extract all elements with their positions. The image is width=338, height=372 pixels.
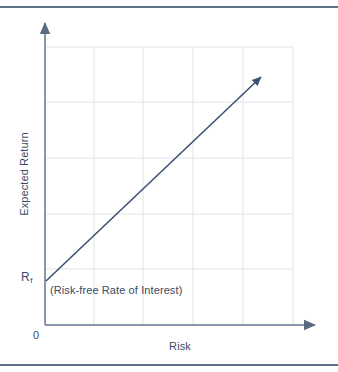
capital-market-line (46, 77, 261, 281)
chart-plot-area (0, 0, 338, 372)
x-axis-label: Risk (140, 340, 220, 352)
y-axis-label: Expected Return (18, 114, 30, 234)
risk-free-rate-symbol: R (21, 270, 30, 284)
origin-tick-label: 0 (33, 329, 39, 341)
risk-free-rate-note: (Risk-free Rate of Interest) (50, 284, 182, 296)
risk-free-rate-label: Rf (21, 270, 32, 284)
figure-container: Expected Return Risk 0 Rf (Risk-free Rat… (0, 0, 338, 372)
risk-free-rate-subscript: f (30, 276, 32, 285)
